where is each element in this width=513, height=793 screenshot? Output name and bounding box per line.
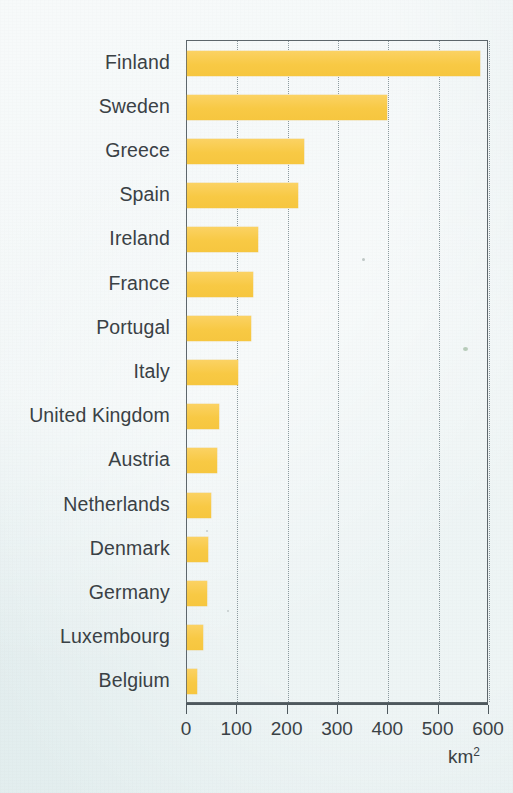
x-tick-500 xyxy=(438,705,439,714)
category-label-united-kingdom: United Kingdom xyxy=(29,403,170,428)
category-label-sweden: Sweden xyxy=(99,94,170,119)
bar xyxy=(187,404,219,429)
x-axis-unit-label: km2 xyxy=(448,745,480,768)
bar xyxy=(187,95,387,120)
bar xyxy=(187,625,203,650)
category-label-denmark: Denmark xyxy=(90,536,170,561)
bar xyxy=(187,360,238,385)
bar xyxy=(187,316,251,341)
category-label-ireland: Ireland xyxy=(109,226,170,251)
category-label-netherlands: Netherlands xyxy=(63,492,170,517)
category-label-portugal: Portugal xyxy=(96,315,170,340)
bar xyxy=(187,183,298,208)
category-label-finland: Finland xyxy=(105,50,170,75)
bar xyxy=(187,537,208,562)
x-tick-400 xyxy=(387,705,388,714)
x-tick-100 xyxy=(236,705,237,714)
x-tick-label-200: 200 xyxy=(271,718,303,740)
x-tick-label-100: 100 xyxy=(220,718,252,740)
x-tick-200 xyxy=(287,705,288,714)
plot-area xyxy=(186,40,488,703)
category-label-austria: Austria xyxy=(108,447,170,472)
bar xyxy=(187,448,217,473)
x-tick-300 xyxy=(337,705,338,714)
x-tick-0 xyxy=(186,705,187,714)
category-label-france: France xyxy=(108,271,170,296)
category-axis-labels: FinlandSwedenGreeceSpainIrelandFrancePor… xyxy=(0,40,178,703)
bar xyxy=(187,581,207,606)
category-label-italy: Italy xyxy=(133,359,170,384)
bar-series xyxy=(187,41,487,702)
category-label-greece: Greece xyxy=(105,138,170,163)
category-label-spain: Spain xyxy=(119,182,170,207)
bar-chart-figure: FinlandSwedenGreeceSpainIrelandFrancePor… xyxy=(0,0,513,793)
x-axis: 0100200300400500600 xyxy=(186,703,488,705)
x-tick-label-300: 300 xyxy=(321,718,353,740)
unit-base: km xyxy=(448,746,473,767)
gridline-600 xyxy=(489,41,490,702)
bar xyxy=(187,51,480,76)
x-tick-600 xyxy=(488,705,489,714)
bar xyxy=(187,139,304,164)
x-tick-label-600: 600 xyxy=(472,718,504,740)
x-tick-label-400: 400 xyxy=(371,718,403,740)
bar xyxy=(187,493,211,518)
x-tick-label-500: 500 xyxy=(422,718,454,740)
category-label-germany: Germany xyxy=(89,580,170,605)
x-tick-label-0: 0 xyxy=(181,718,192,740)
bar xyxy=(187,227,258,252)
bar xyxy=(187,272,253,297)
category-label-belgium: Belgium xyxy=(99,668,171,693)
category-label-luxembourg: Luxembourg xyxy=(60,624,170,649)
unit-exponent: 2 xyxy=(473,745,480,759)
bar xyxy=(187,669,197,694)
